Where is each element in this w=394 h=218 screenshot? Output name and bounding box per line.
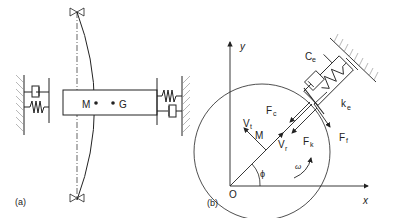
angle-label: ϕ [260,169,265,179]
svg-text:r: r [285,145,288,152]
panel-b-label: (b) [207,198,218,208]
svg-text:k: k [310,141,314,148]
vel-r-label: V r [278,139,288,152]
x-axis-label: x [362,195,369,206]
mass-point-label: M [82,99,90,110]
svg-text:F: F [303,136,309,147]
vel-t-label: V t [243,118,252,130]
y-axis-label: y [239,41,246,52]
omega-label: ω [295,162,301,171]
svg-text:F: F [339,132,345,143]
svg-text:t: t [250,123,252,130]
right-spring-icon [157,90,182,102]
spring-label: k e [341,98,351,111]
mass-point-dot [94,101,98,105]
force-c-arrow [290,102,310,122]
force-c-label: F c [266,105,277,117]
svg-text:e: e [312,56,316,63]
left-damper-icon [24,86,49,97]
center-point-label: G [119,99,127,110]
rotor-disk [63,90,157,115]
origin-label: O [229,189,237,200]
panel-a-label: (a) [15,197,26,207]
left-spring-icon [24,101,49,113]
svg-text:e: e [347,104,351,111]
point-m-label: M [255,130,263,141]
svg-text:f: f [346,137,348,144]
svg-text:F: F [266,105,272,116]
left-wall-hatch [16,75,24,132]
force-f-arrow [314,104,330,127]
right-damper-icon [157,105,182,117]
right-wall-hatch [182,76,190,133]
angle-arc [252,164,260,186]
diagram-canvas: M G (a) [0,0,394,218]
svg-text:V: V [278,139,285,150]
panel-a [16,8,190,202]
bottom-bearing-icon [70,194,84,202]
svg-text:V: V [243,118,250,129]
force-k-label: F k [303,136,314,148]
center-point-dot [111,101,115,105]
damper-label: C e [305,51,316,63]
radius-line [230,104,312,186]
panel-b [194,34,378,218]
svg-text:c: c [273,110,277,117]
force-f-label: F f [339,132,348,144]
